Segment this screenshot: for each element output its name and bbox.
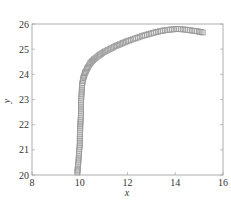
x-tick-label: 14 xyxy=(170,177,180,188)
y-tick-label: 25 xyxy=(19,44,29,55)
y-tick-label: 26 xyxy=(19,19,29,30)
y-tick-label: 20 xyxy=(19,170,29,181)
y-tick-label: 24 xyxy=(19,69,29,80)
x-tick-label: 10 xyxy=(75,177,85,188)
scatter-chart: 81012141620212223242526 x y xyxy=(0,0,231,213)
x-tick-label: 16 xyxy=(218,177,228,188)
x-axis-label: x xyxy=(124,187,130,198)
y-tick-label: 22 xyxy=(19,119,29,130)
y-tick-label: 23 xyxy=(19,94,29,105)
y-axis-label: y xyxy=(1,98,12,104)
plot-area xyxy=(32,24,223,175)
y-tick-label: 21 xyxy=(19,144,29,155)
x-tick-label: 8 xyxy=(30,177,35,188)
